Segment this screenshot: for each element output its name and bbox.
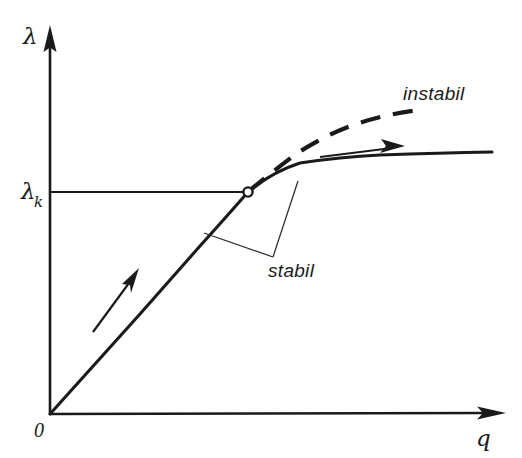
unstable-branch-label: instabil <box>403 83 465 104</box>
x-axis-label: q <box>476 425 491 451</box>
stable-branch-label: stabil <box>268 260 315 281</box>
lower-flow-arrow-shaft <box>93 283 129 332</box>
flow-arrows-group <box>93 139 405 332</box>
origin-label: 0 <box>34 419 44 441</box>
bifurcation-point-group <box>243 187 252 196</box>
upper-flow-arrow-head <box>380 139 405 153</box>
bifurcation-diagram: λ λ k 0 q <box>0 0 522 458</box>
unstable-branch-curve <box>249 110 420 191</box>
y-axis-label: λ <box>22 23 38 49</box>
bifurcation-point-marker <box>243 187 252 196</box>
figure-root: λ λ k 0 q <box>0 0 522 458</box>
x-axis-line <box>50 413 487 414</box>
stabil-leader-lower <box>204 233 273 257</box>
critical-level-subscript: k <box>34 193 43 211</box>
stabil-leader-upper <box>273 181 298 257</box>
